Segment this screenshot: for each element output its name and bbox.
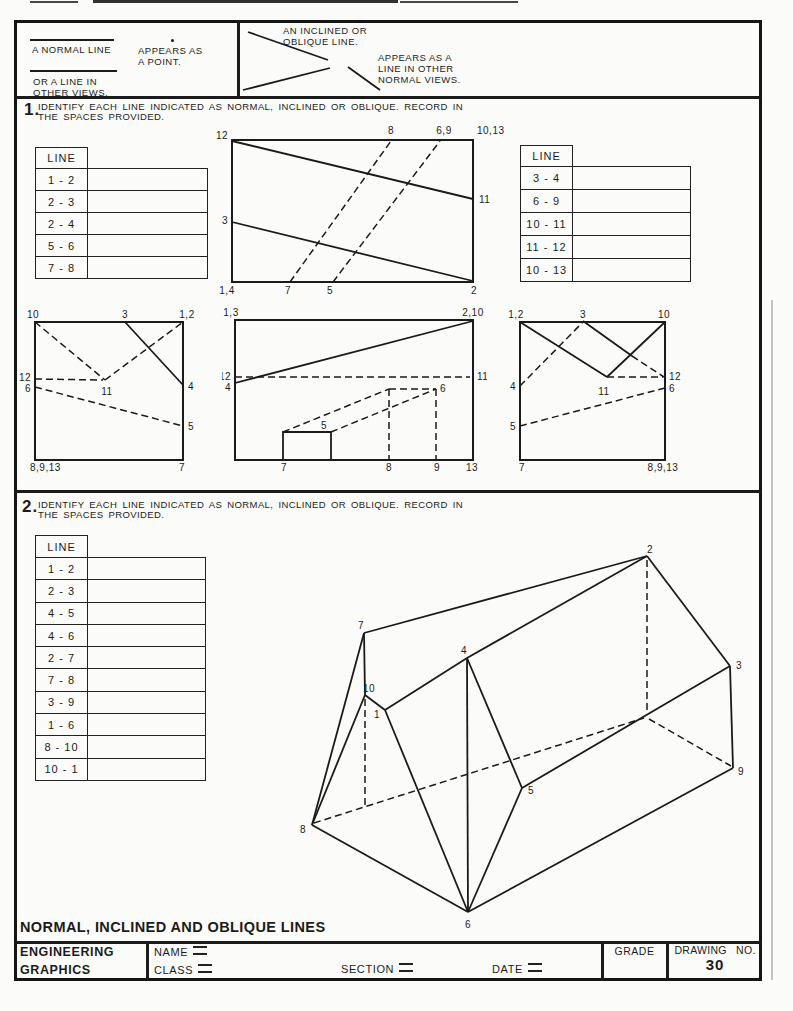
point-label: 9 (738, 766, 744, 777)
answer-blank[interactable] (88, 558, 206, 580)
table-header: LINE (521, 146, 573, 167)
appears-as-point-text: A POINT. (138, 56, 181, 67)
answer-blank[interactable] (88, 624, 206, 646)
answer-blank[interactable] (88, 169, 208, 191)
line-label: 2 - 3 (36, 580, 88, 602)
point-label: 6 (25, 383, 31, 394)
point-label: 8,9,13 (648, 462, 679, 473)
visible-lines (312, 556, 733, 912)
table-header: LINE (36, 536, 88, 558)
point-label: 7 (519, 462, 525, 473)
titleblock-top-line (14, 941, 762, 944)
point-label: 2 (471, 285, 477, 296)
point-label: 4 (510, 381, 516, 392)
section-blank[interactable] (399, 963, 413, 972)
line-label: 3 - 4 (521, 167, 573, 190)
point-label: 6 (669, 383, 675, 394)
line-label: 7 - 8 (36, 669, 88, 691)
class-field-label: CLASS (154, 964, 212, 976)
class-blank[interactable] (198, 964, 212, 973)
hidden-lines (520, 322, 665, 426)
drawing-title: NORMAL, INCLINED AND OBLIQUE LINES (20, 919, 325, 935)
section2-instruction: THE SPACES PROVIDED. (38, 509, 164, 520)
answer-blank[interactable] (88, 257, 208, 279)
point-label: 6,9 (436, 125, 451, 136)
point-label: 10 (27, 309, 39, 320)
hidden-lines (314, 560, 731, 823)
drawing-no-value: 30 (669, 956, 761, 973)
grade-label: GRADE (603, 945, 666, 957)
answer-blank[interactable] (88, 602, 206, 624)
line-label: 3 - 9 (36, 691, 88, 713)
point-label: 2,10 (462, 308, 483, 318)
answer-blank[interactable] (88, 580, 206, 602)
point-label: 5 (510, 421, 516, 432)
drawing-no-label: DRAWING NO. (669, 944, 761, 956)
answer-blank[interactable] (88, 669, 206, 691)
answer-blank[interactable] (88, 235, 208, 257)
point-label: 5 (528, 785, 534, 796)
inclined-appears-text: APPEARS AS A (378, 52, 452, 63)
answer-blank[interactable] (88, 191, 208, 213)
point-label: 4 (225, 382, 231, 393)
answer-blank[interactable] (573, 259, 691, 282)
answer-blank[interactable] (88, 213, 208, 235)
orthographic-view-b: 1,3 2,10 12 4 11 6 5 7 8 9 13 (222, 308, 487, 478)
point-label: 7 (285, 285, 291, 296)
point-label: 10 (658, 309, 670, 320)
scan-artifact (400, 1, 518, 3)
date-blank[interactable] (528, 963, 542, 972)
section1-left-table: LINE 1 - 2 2 - 3 2 - 4 5 - 6 7 - 8 (35, 147, 208, 279)
answer-blank[interactable] (88, 758, 206, 780)
or-line-text: OTHER VIEWS. (33, 87, 108, 98)
line-label: 10 - 1 (36, 758, 88, 780)
point-label: 8 (388, 125, 394, 136)
name-field-label: NAME (154, 946, 207, 958)
point-label: 6 (440, 383, 446, 394)
visible-lines (520, 321, 665, 377)
line-label: 1 - 2 (36, 558, 88, 580)
point-label: 9 (434, 462, 440, 473)
name-blank[interactable] (193, 946, 207, 955)
line-label: 1 - 2 (36, 169, 88, 191)
section1-right-table: LINE 3 - 4 6 - 9 10 - 11 11 - 12 10 - 13 (520, 145, 691, 282)
section2-number: 2. (22, 497, 38, 517)
orthographic-view-c: 1,2 3 10 4 12 6 11 5 7 8,9,13 (492, 308, 734, 478)
line-label: 8 - 10 (36, 736, 88, 758)
scan-artifact (93, 0, 398, 3)
line-label: 7 - 8 (36, 257, 88, 279)
line-label: 2 - 7 (36, 647, 88, 669)
answer-blank[interactable] (573, 213, 691, 236)
hidden-lines (290, 141, 440, 282)
point-label: 10 (363, 683, 375, 694)
answer-blank[interactable] (88, 691, 206, 713)
pictorial-figure: 2 7 4 3 10 1 5 6 8 9 (285, 538, 755, 935)
point-label: 4 (461, 645, 467, 656)
visible-lines (235, 321, 473, 460)
point-label: 7 (281, 462, 287, 473)
line-label: 2 - 3 (36, 191, 88, 213)
answer-blank[interactable] (88, 736, 206, 758)
point-label: 11 (598, 386, 609, 397)
point-label: 1 (374, 709, 380, 720)
inclined-appears-text: NORMAL VIEWS. (378, 74, 461, 85)
point-label: 12 (222, 371, 231, 382)
answer-blank[interactable] (573, 167, 691, 190)
line-label: 4 - 5 (36, 602, 88, 624)
orthographic-view-a: 10 3 1,2 12 6 11 4 5 8,9,13 7 (10, 308, 222, 478)
point-label: 10,13 (477, 125, 505, 136)
point-label: 1,4 (219, 285, 234, 296)
point-label: 5 (327, 285, 333, 296)
point-label: 1,2 (508, 309, 523, 320)
inclined-label-text: OBLIQUE LINE. (283, 36, 358, 47)
answer-blank[interactable] (88, 714, 206, 736)
section2-table: LINE 1 - 2 2 - 3 4 - 5 4 - 6 2 - 7 7 - 8… (35, 535, 206, 781)
scan-artifact (30, 1, 78, 3)
answer-blank[interactable] (573, 190, 691, 213)
org-name: ENGINEERING (20, 945, 114, 959)
answer-blank[interactable] (88, 647, 206, 669)
worksheet-sheet: A NORMAL LINE APPEARS AS A POINT. OR A L… (0, 0, 793, 1011)
or-line-text: OR A LINE IN (33, 76, 97, 87)
answer-blank[interactable] (573, 236, 691, 259)
line-label: 1 - 6 (36, 714, 88, 736)
